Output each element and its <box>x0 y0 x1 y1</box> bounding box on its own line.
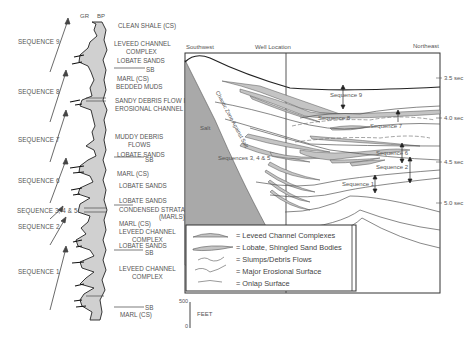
sequence-2-inner-label: Sequence 2 <box>376 164 408 170</box>
salt-label: Salt <box>200 125 210 131</box>
time-4-5-label: 4.5 sec <box>444 159 463 165</box>
sequences-345-inner-label: Sequences 3, 4 & 5 <box>218 155 270 161</box>
legend-leveed-channel: = Leveed Channel Complexes <box>236 231 335 240</box>
legend-slumps: = Slumps/Debris Flows <box>236 255 312 264</box>
cross-section-panel: Southwest Well Location Northeast <box>0 0 473 341</box>
time-4-0-label: 4.0 sec <box>444 115 463 121</box>
legend-erosional: = Major Erosional Surface <box>236 267 321 276</box>
legend-onlap: = Onlap Surface <box>236 279 290 288</box>
sequence-8-inner-label: Sequence 8 <box>318 115 350 121</box>
sequence-9-inner-label: Sequence 9 <box>330 92 362 98</box>
sequence-6-inner-label: Sequence 6 <box>376 150 408 156</box>
time-5-0-label: 5.0 sec <box>444 200 463 206</box>
legend-lobate-sand: = Lobate, Shingled Sand Bodies <box>236 243 342 252</box>
time-3-5-label: 3.5 sec <box>444 75 463 81</box>
sequence-1-inner-label: Sequence 1 <box>342 181 374 187</box>
cross-section-drawing <box>0 0 473 341</box>
sequence-7-inner-label: Sequence 7 <box>370 123 402 129</box>
